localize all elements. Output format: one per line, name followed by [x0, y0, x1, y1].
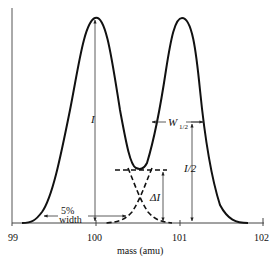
five-pct-label-line2: width: [59, 214, 82, 225]
mass-spectrum-resolution-diagram: I W 1/2 I/2 ΔI 5% width 99 100 101 102 m…: [0, 0, 276, 257]
valley-delta-label: ΔI: [149, 191, 161, 203]
half-width-label: W: [168, 116, 178, 128]
x-axis-title: mass (amu): [117, 245, 163, 257]
half-width-subscript: 1/2: [179, 123, 188, 131]
x-tick-label-99: 99: [8, 232, 18, 243]
half-height-label: I/2: [183, 162, 197, 174]
spectrum-curve: [22, 18, 248, 223]
x-tick-label-100: 100: [87, 232, 102, 243]
peak2-tail-dashed: [106, 168, 152, 223]
x-tick-label-102: 102: [254, 232, 269, 243]
x-tick-label-101: 101: [172, 232, 187, 243]
